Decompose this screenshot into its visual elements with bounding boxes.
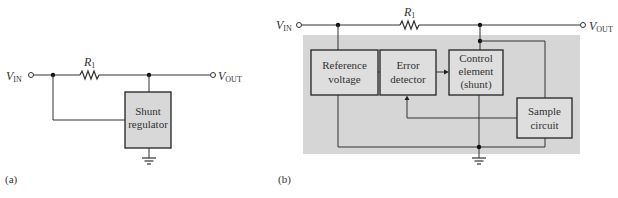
- vout-label-b: VOUT: [589, 19, 613, 34]
- sample-circuit-block: [517, 98, 572, 138]
- diagram-a: VIN R1 VOUT Shunt regulator (a): [5, 55, 242, 186]
- vout-terminal-b: [581, 23, 586, 28]
- control-element-label-1: Control: [459, 52, 493, 64]
- diagram-b: VIN R1 VOUT Reference voltage Error dete…: [276, 5, 613, 186]
- vin-terminal-b: [297, 23, 302, 28]
- sample-circuit-label-2: circuit: [530, 119, 558, 131]
- shunt-regulator-diagrams: VIN R1 VOUT Shunt regulator (a) VIN: [0, 0, 618, 198]
- control-element-label-3: (shunt): [460, 78, 492, 91]
- resistor-r1-b: [400, 21, 419, 29]
- caption-a: (a): [5, 173, 18, 186]
- vin-label-b: VIN: [276, 18, 292, 33]
- reference-voltage-label-1: Reference: [322, 59, 367, 71]
- r1-label-b: R1: [403, 5, 415, 20]
- junction-dot: [477, 145, 481, 149]
- control-element-label-2: element: [459, 65, 494, 77]
- error-detector-label-1: Error: [396, 59, 420, 71]
- ground-icon: [472, 158, 486, 164]
- sample-circuit-label-1: Sample: [528, 105, 561, 117]
- shunt-regulator-label-1: Shunt: [135, 105, 161, 117]
- vin-label-a: VIN: [6, 69, 22, 84]
- error-detector-label-2: detector: [390, 73, 426, 85]
- vin-terminal-a: [29, 73, 34, 78]
- caption-b: (b): [278, 173, 291, 186]
- vout-label-a: VOUT: [218, 69, 242, 84]
- vout-terminal-a: [211, 73, 216, 78]
- r1-label-a: R1: [83, 55, 95, 70]
- reference-voltage-label-2: voltage: [328, 73, 360, 85]
- ground-icon: [142, 158, 156, 164]
- resistor-r1-a: [80, 71, 99, 79]
- shunt-regulator-label-2: regulator: [128, 118, 168, 130]
